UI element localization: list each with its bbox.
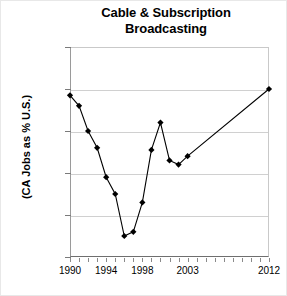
x-tick-mark [179,258,180,262]
x-tick-mark [124,258,125,262]
gridline-y-13 [71,90,268,91]
x-tick-mark [170,258,171,262]
x-tick-mark [133,258,134,262]
x-tick-label: 2012 [247,265,287,276]
gridline-y-11 [71,174,268,175]
y-tick-mark [65,47,71,48]
x-tick-mark [188,258,189,262]
x-tick-mark [97,258,98,262]
x-tick-mark [106,258,107,262]
x-tick-mark [115,258,116,262]
y-tick-mark [65,173,71,174]
chart-title-line-1: Cable & Subscription [51,5,281,21]
x-tick-mark [233,258,234,262]
chart-title: Cable & Subscription Broadcasting [51,5,281,37]
gridline-y-10 [71,216,268,217]
x-tick-mark [151,258,152,262]
x-tick-mark [160,258,161,262]
x-tick-mark [251,258,252,262]
y-tick-mark [65,131,71,132]
x-tick-mark [142,258,143,262]
y-tick-mark [65,89,71,90]
x-tick-mark [88,258,89,262]
x-tick-mark [260,258,261,262]
x-tick-mark [70,258,71,262]
x-tick-mark [269,258,270,262]
gridline-y-12 [71,132,268,133]
x-tick-label: 1998 [120,265,164,276]
chart-container: Cable & Subscription Broadcasting (CA Jo… [0,0,287,296]
x-tick-mark [206,258,207,262]
y-tick-mark [65,215,71,216]
x-tick-label: 2003 [166,265,210,276]
x-tick-mark [197,258,198,262]
x-tick-mark [79,258,80,262]
plot-area [70,47,269,257]
chart-title-line-2: Broadcasting [51,21,281,37]
x-tick-mark [224,258,225,262]
x-tick-mark [215,258,216,262]
y-axis-title: (CA Jobs as % U.S.) [20,47,32,247]
x-tick-mark [242,258,243,262]
